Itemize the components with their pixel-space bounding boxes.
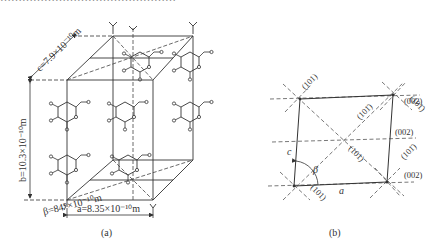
c-dimension-label: c=7.9×10⁻¹⁰m xyxy=(34,25,84,73)
plane-label: (002) xyxy=(404,170,423,180)
plane-label: (101) xyxy=(299,71,319,91)
plane-label: (101̄) xyxy=(398,141,418,161)
unit-cell-box xyxy=(67,36,193,200)
plane-label: (101) xyxy=(347,143,367,163)
figure-a-caption: (a) xyxy=(101,227,112,239)
plane-label: (002) xyxy=(404,96,423,106)
unit-cell-diagram: c=7.9×10⁻¹⁰m b=10.3×10⁻¹⁰m β=84°×10⁻¹⁰m … xyxy=(17,22,213,239)
cellulose-chain-left xyxy=(49,100,90,184)
cellulose-chain-back xyxy=(122,50,163,81)
cellulose-chain-center xyxy=(107,100,151,184)
a-dimension-label: a=8.35×10⁻¹⁰m xyxy=(77,203,140,214)
a-axis-label: a xyxy=(339,185,344,196)
plane-label: (101̄) xyxy=(354,101,374,121)
c-axis-label: c xyxy=(287,146,292,157)
lattice-plane-diagram: β c a (101) (101̄) (101̄) (101) (101̄) (… xyxy=(268,71,428,239)
plane-label: (002) xyxy=(395,127,414,137)
figure-b-caption: (b) xyxy=(329,227,341,239)
figure-canvas: c=7.9×10⁻¹⁰m b=10.3×10⁻¹⁰m β=84°×10⁻¹⁰m … xyxy=(0,0,443,242)
b-dimension-label: b=10.3×10⁻¹⁰m xyxy=(17,118,28,182)
beta-label: β xyxy=(312,164,318,175)
plane-label: (101) xyxy=(309,182,329,202)
plane-traces xyxy=(268,82,420,200)
